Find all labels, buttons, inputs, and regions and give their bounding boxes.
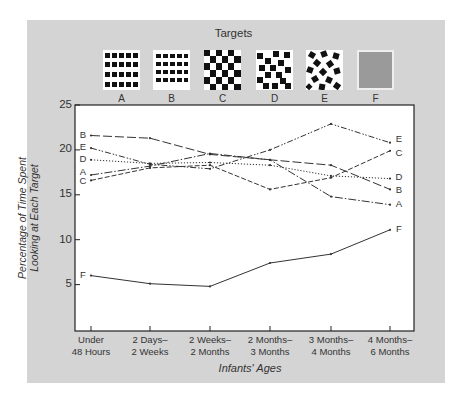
- x-tick-line1: 4 Months–: [355, 334, 425, 346]
- series-start-label-c: C: [78, 175, 88, 186]
- data-point: [330, 175, 332, 177]
- data-point: [90, 179, 92, 181]
- data-point: [269, 262, 271, 264]
- y-axis-label-line2: Looking at Each Target: [28, 118, 40, 318]
- y-tick-25: 25: [46, 98, 72, 110]
- series-end-label-f: F: [394, 223, 404, 234]
- y-axis-label-line1: Percentage of Time Spent: [16, 118, 28, 318]
- data-point: [389, 150, 391, 152]
- data-point: [330, 196, 332, 198]
- data-point: [90, 147, 92, 149]
- y-tick-5: 5: [46, 277, 72, 289]
- data-point: [149, 283, 151, 285]
- x-tick-2-months-3-months: 2 Months– 3 Months: [235, 334, 305, 358]
- data-point: [149, 163, 151, 165]
- data-point: [330, 123, 332, 125]
- data-point: [389, 142, 391, 144]
- data-point: [269, 159, 271, 161]
- x-tick-line2: 3 Months: [235, 346, 305, 358]
- data-point: [209, 161, 211, 163]
- y-tick-20: 20: [46, 142, 72, 154]
- series-start-label-d: D: [78, 153, 88, 164]
- data-point: [389, 188, 391, 190]
- x-tick-line2: 6 Months: [355, 346, 425, 358]
- data-point: [209, 164, 211, 166]
- data-point: [389, 204, 391, 206]
- data-point: [209, 285, 211, 287]
- data-point: [269, 164, 271, 166]
- series-end-label-b: B: [394, 184, 404, 195]
- data-point: [389, 178, 391, 180]
- series-end-label-a: A: [394, 198, 404, 209]
- data-point: [269, 149, 271, 151]
- x-tick-4-months-6-months: 4 Months– 6 Months: [355, 334, 425, 358]
- data-point: [209, 168, 211, 170]
- y-tick-10: 10: [46, 233, 72, 245]
- data-point: [330, 164, 332, 166]
- x-tick-line1: 2 Months–: [235, 334, 305, 346]
- data-point: [90, 174, 92, 176]
- data-point: [90, 159, 92, 161]
- data-point: [149, 137, 151, 139]
- data-point: [269, 188, 271, 190]
- y-axis-label: Percentage of Time Spent Looking at Each…: [16, 118, 40, 318]
- x-axis-label: Infants' Ages: [60, 362, 440, 374]
- data-point: [330, 253, 332, 255]
- plot-area: [75, 105, 414, 331]
- series-start-label-e: E: [78, 141, 88, 152]
- data-point: [149, 167, 151, 169]
- series-end-label-e: E: [394, 133, 404, 144]
- series-start-label-b: B: [78, 129, 88, 140]
- data-point: [90, 134, 92, 136]
- data-point: [389, 229, 391, 231]
- series-end-label-c: C: [394, 147, 404, 158]
- data-point: [209, 153, 211, 155]
- data-point: [90, 275, 92, 277]
- y-tick-15: 15: [46, 187, 72, 199]
- series-end-label-d: D: [394, 171, 404, 182]
- series-start-label-f: F: [78, 269, 88, 280]
